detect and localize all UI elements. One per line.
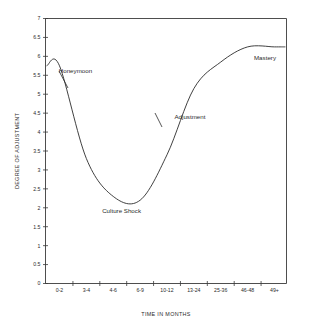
y-tick-label: 2.5: [33, 186, 40, 192]
culture-shock-chart: 00.511.522.533.544.555.566.57 0-23-44-66…: [0, 0, 313, 330]
y-tick-label: 5.5: [33, 72, 40, 78]
y-tick-label: 1.5: [33, 224, 40, 230]
curve-annotations: HoneymoonCulture ShockAdjustmentMastery: [59, 54, 277, 214]
plot-frame: [46, 19, 287, 284]
x-tick-label: 13-24: [187, 287, 200, 293]
y-tick-label: 0.5: [33, 261, 40, 267]
x-tick-label: 3-4: [83, 287, 91, 293]
x-tick-label: 46-48: [241, 287, 254, 293]
y-axis-title: DEGREE OF ADJUSTMENT: [14, 113, 20, 190]
curve-annotation-label: Honeymoon: [59, 67, 93, 74]
x-axis-ticks: 0-23-44-66-910-1213-2425-3646-4849+: [56, 281, 279, 293]
y-tick-label: 7: [38, 15, 41, 21]
y-tick-label: 4.5: [33, 110, 40, 116]
curve-annotation-label: Adjustment: [174, 113, 205, 120]
y-tick-label: 2: [38, 205, 41, 211]
x-tick-label: 6-9: [136, 287, 144, 293]
adjustment-leader-line: [155, 113, 162, 127]
x-axis-title: TIME IN MONTHS: [141, 311, 191, 317]
x-tick-label: 49+: [270, 287, 279, 293]
y-tick-label: 5: [38, 91, 41, 97]
x-tick-label: 0-2: [56, 287, 64, 293]
chart-canvas: 00.511.522.533.544.555.566.57 0-23-44-66…: [0, 0, 313, 330]
y-tick-label: 3.5: [33, 148, 40, 154]
y-tick-label: 0: [38, 280, 41, 286]
x-tick-label: 10-12: [160, 287, 173, 293]
y-axis-ticks: 00.511.522.533.544.555.566.57: [33, 15, 48, 286]
curve-annotation-label: Culture Shock: [102, 207, 142, 214]
y-tick-label: 6.5: [33, 34, 40, 40]
curve-annotation-label: Mastery: [254, 54, 277, 61]
y-tick-label: 3: [38, 167, 41, 173]
x-tick-label: 4-6: [110, 287, 118, 293]
x-tick-label: 25-36: [214, 287, 227, 293]
y-tick-label: 1: [38, 243, 41, 249]
y-tick-label: 6: [38, 53, 41, 59]
y-tick-label: 4: [38, 129, 41, 135]
